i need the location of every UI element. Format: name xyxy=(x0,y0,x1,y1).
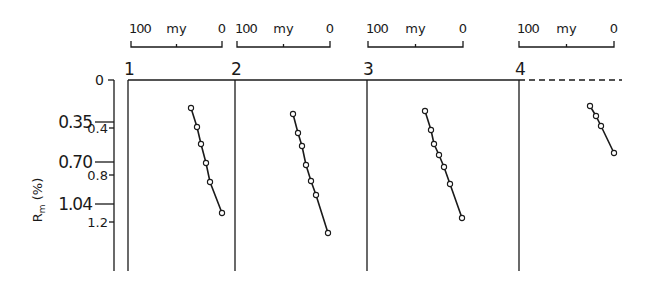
data-point xyxy=(431,141,436,146)
y-axis-label: Rm (%) xyxy=(30,178,47,222)
chart-figure: 00.350.701.040.40.81.2Rm (%) 1100my02100… xyxy=(0,0,647,283)
panel-number: 2 xyxy=(231,59,242,79)
scale-label-100: 100 xyxy=(366,21,389,36)
panels: 1100my02100my03100my04100my0 xyxy=(124,21,622,271)
data-point xyxy=(207,179,212,184)
data-point xyxy=(459,215,464,220)
scale-label-100: 100 xyxy=(517,21,540,36)
data-line xyxy=(590,106,614,153)
scale-label-100: 100 xyxy=(235,21,258,36)
data-point xyxy=(611,150,616,155)
data-point xyxy=(428,127,433,132)
data-point xyxy=(194,124,199,129)
scale-label-0: 0 xyxy=(218,21,226,36)
y-tick-label: 0 xyxy=(95,72,104,88)
scale-label-0: 0 xyxy=(326,21,334,36)
scale-label-unit: my xyxy=(273,21,294,36)
data-point xyxy=(422,108,427,113)
panel-3: 3100my0 xyxy=(363,21,519,271)
y-axis: 00.350.701.040.40.81.2Rm (%) xyxy=(30,72,114,271)
y-tick-label: 0.8 xyxy=(87,168,108,183)
data-point xyxy=(325,230,330,235)
y-tick-label: 1.04 xyxy=(58,194,92,214)
data-point xyxy=(198,141,203,146)
scale-label-unit: my xyxy=(405,21,426,36)
data-point xyxy=(441,164,446,169)
scale-label-100: 100 xyxy=(129,21,152,36)
data-point xyxy=(295,130,300,135)
data-point xyxy=(587,103,592,108)
panel-2: 2100my0 xyxy=(231,21,367,271)
y-tick-label: 1.2 xyxy=(87,215,108,230)
data-point xyxy=(203,160,208,165)
y-tick-label: 0.4 xyxy=(87,121,108,136)
data-point xyxy=(598,123,603,128)
panel-number: 3 xyxy=(363,59,374,79)
data-point xyxy=(299,143,304,148)
data-point xyxy=(436,152,441,157)
panel-number: 4 xyxy=(515,59,526,79)
panel-1: 1100my0 xyxy=(124,21,235,271)
scale-label-0: 0 xyxy=(610,21,618,36)
data-point xyxy=(290,111,295,116)
data-point xyxy=(303,162,308,167)
scale-label-unit: my xyxy=(556,21,577,36)
data-point xyxy=(313,192,318,197)
data-point xyxy=(188,105,193,110)
data-point xyxy=(308,178,313,183)
data-point xyxy=(593,113,598,118)
scale-label-unit: my xyxy=(166,21,187,36)
data-point xyxy=(219,210,224,215)
panel-number: 1 xyxy=(124,59,135,79)
data-point xyxy=(447,181,452,186)
panel-4: 4100my0 xyxy=(515,21,622,271)
scale-label-0: 0 xyxy=(459,21,467,36)
